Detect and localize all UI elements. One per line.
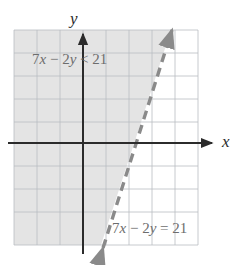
y-axis-label: y xyxy=(70,10,78,27)
equation-coefficient: 7 xyxy=(112,220,120,236)
inequality-coefficient: 7 xyxy=(32,51,40,67)
equation-operator: − 2 xyxy=(126,220,149,236)
boundary-equation-label: 7x − 2y = 21 xyxy=(112,221,187,236)
x-axis-label: x xyxy=(222,133,230,150)
inequality-graph-figure: y x 7x − 2y < 21 7x − 2y = 21 xyxy=(0,0,238,265)
equation-relation: = 21 xyxy=(156,220,187,236)
inequality-operator: − 2 xyxy=(46,51,69,67)
inequality-relation: < 21 xyxy=(76,51,107,67)
inequality-label: 7x − 2y < 21 xyxy=(32,52,107,67)
